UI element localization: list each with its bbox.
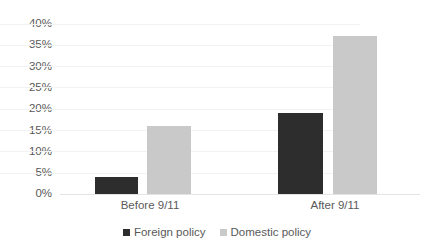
- bar-before-domestic-policy: [147, 126, 191, 194]
- legend-swatch-icon-foreign-policy: [123, 229, 130, 236]
- legend-label-domestic-policy: Domestic policy: [231, 226, 312, 238]
- bar-before-foreign-policy: [95, 177, 138, 194]
- category-label-after: After 9/11: [270, 199, 400, 211]
- legend-swatch-icon-domestic-policy: [220, 229, 227, 236]
- bar-after-domestic-policy: [333, 36, 377, 194]
- bar-after-foreign-policy: [278, 113, 323, 194]
- legend-label-foreign-policy: Foreign policy: [134, 226, 206, 238]
- legend-item-foreign-policy: Foreign policy: [123, 226, 206, 238]
- category-label-before: Before 9/11: [85, 199, 215, 211]
- chart-legend: Foreign policy Domestic policy: [0, 226, 434, 238]
- bar-chart: 40% 35% 30% 25% 20% 15% 10% 5% 0% Before…: [0, 0, 434, 245]
- legend-item-domestic-policy: Domestic policy: [220, 226, 312, 238]
- plot-area: [60, 20, 420, 194]
- x-axis-baseline: [60, 194, 420, 195]
- y-axis-tick-0: 0%: [0, 188, 52, 199]
